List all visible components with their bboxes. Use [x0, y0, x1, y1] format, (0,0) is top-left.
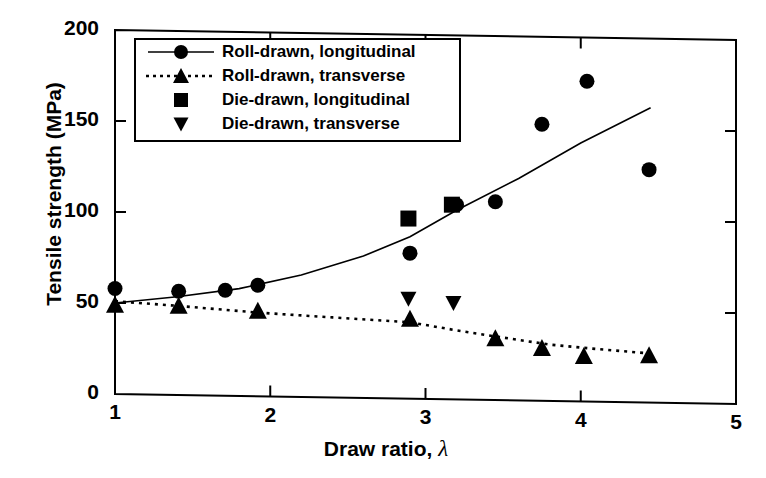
data-point: [533, 339, 551, 356]
data-point: [401, 310, 419, 327]
data-point: [486, 329, 504, 346]
legend-item-label: Roll-drawn, transverse: [220, 66, 405, 86]
x-tick-label: 4: [561, 408, 601, 432]
chart-figure: Tensile strength (MPa) Draw ratio, λ 050…: [0, 0, 766, 478]
legend-item[interactable]: Die-drawn, transverse: [136, 112, 459, 136]
trend-lines: [115, 108, 651, 354]
data-point: [108, 281, 123, 296]
x-tick-label: 3: [406, 405, 446, 429]
legend-item-label: Roll-drawn, longitudinal: [220, 42, 416, 62]
circle-icon: [142, 41, 220, 63]
data-point: [642, 162, 657, 177]
data-point: [534, 117, 549, 132]
x-axis-label: Draw ratio, λ: [236, 436, 536, 462]
data-point: [402, 246, 417, 261]
data-point: [579, 74, 594, 89]
legend-item[interactable]: Die-drawn, longitudinal: [136, 88, 459, 112]
data-point: [640, 346, 658, 363]
data-point: [445, 296, 461, 311]
legend-rows: Roll-drawn, longitudinalRoll-drawn, tran…: [136, 40, 459, 136]
x-tick-label: 1: [95, 400, 135, 424]
lambda-symbol: λ: [438, 436, 448, 461]
data-point: [444, 197, 460, 213]
data-point: [250, 278, 265, 293]
y-tick-label: 150: [19, 107, 99, 131]
data-point: [400, 211, 416, 227]
triangle-up-icon: [142, 65, 220, 87]
x-tick-label: 5: [716, 410, 756, 434]
triangle-down-icon: [142, 113, 220, 135]
y-tick-label: 0: [19, 380, 99, 404]
data-point: [106, 296, 124, 313]
legend-item[interactable]: Roll-drawn, longitudinal: [136, 40, 459, 64]
y-tick-label: 100: [19, 198, 99, 222]
x-tick-label: 2: [250, 403, 290, 427]
legend-item-label: Die-drawn, transverse: [220, 114, 400, 134]
data-point: [218, 283, 233, 298]
data-point: [575, 347, 593, 364]
legend-item-label: Die-drawn, longitudinal: [220, 90, 410, 110]
y-tick-label: 200: [19, 16, 99, 40]
data-point: [249, 302, 267, 319]
data-point: [488, 194, 503, 209]
legend: Roll-drawn, longitudinalRoll-drawn, tran…: [134, 38, 461, 142]
square-icon: [142, 89, 220, 111]
y-tick-label: 50: [19, 289, 99, 313]
x-axis-label-text: Draw ratio,: [324, 437, 438, 460]
legend-item[interactable]: Roll-drawn, transverse: [136, 64, 459, 88]
data-point: [171, 284, 186, 299]
data-point: [400, 292, 416, 307]
